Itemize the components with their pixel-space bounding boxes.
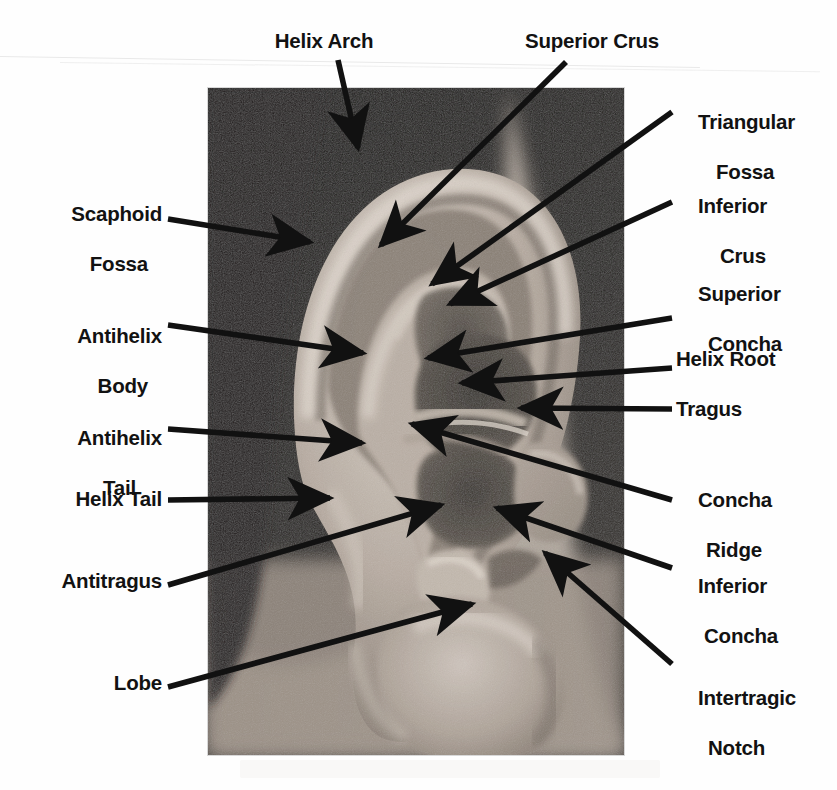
label-lobe: Lobe [0,670,162,695]
scan-smudge [240,760,660,778]
label-inferior-concha-line1: Inferior [698,574,767,597]
label-inferior-crus-line1: Inferior [698,194,767,217]
label-helix-tail: Helix Tail [0,486,162,511]
figure-canvas: Helix Arch Superior Crus Triangular Foss… [0,0,837,790]
label-scaphoid-fossa-line1: Scaphoid [71,202,162,225]
label-scaphoid-fossa: Scaphoid Fossa [0,176,162,301]
ear-photograph [208,88,624,755]
label-intertragic-notch-line1: Intertragic [698,686,796,709]
label-intertragic-notch-line2: Notch [698,735,765,760]
label-intertragic-notch: Intertragic Notch [676,660,837,785]
label-antihelix-body-line1: Antihelix [77,324,162,347]
label-tragus: Tragus [676,396,837,421]
label-helix-arch: Helix Arch [224,28,424,53]
label-inferior-concha-line2: Concha [698,623,778,648]
label-superior-crus: Superior Crus [492,28,692,53]
label-antihelix-tail-line1: Antihelix [77,426,162,449]
scan-artifact-line-2 [60,62,820,72]
ear-photo-graphic [208,88,624,755]
label-antitragus: Antitragus [0,568,162,593]
label-superior-concha-line1: Superior [698,282,781,305]
label-concha-ridge-line1: Concha [698,488,772,511]
label-scaphoid-fossa-line2: Fossa [90,251,162,276]
label-antihelix-body-line2: Body [98,373,162,398]
label-helix-root: Helix Root [676,346,837,371]
label-inferior-concha: Inferior Concha [676,548,837,673]
scan-artifact-line [0,56,700,68]
label-triangular-fossa-line1: Triangular [698,110,795,133]
